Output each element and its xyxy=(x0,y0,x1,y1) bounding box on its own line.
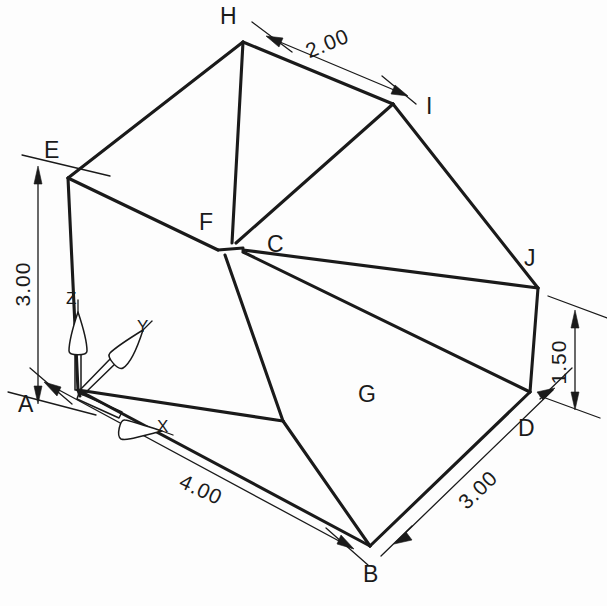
dim-text-depth-right: 3.00 xyxy=(454,466,502,514)
dimension-front-width: 4.00 xyxy=(30,368,368,565)
edge-F-G xyxy=(225,255,283,421)
vertex-label-J: J xyxy=(524,245,536,271)
vertex-label-G: G xyxy=(358,381,376,407)
edge-F-C xyxy=(218,248,243,250)
dim-text-front-width: 4.00 xyxy=(176,469,226,509)
vertex-label-I: I xyxy=(426,93,433,119)
edge-C-I xyxy=(236,104,393,243)
arrow-right-top-width xyxy=(391,85,408,96)
dimension-height-right: 1.50 xyxy=(540,296,607,418)
axis-z-label: Z xyxy=(66,289,76,308)
axis-x-label: X xyxy=(157,417,168,436)
arrow-up-left-height xyxy=(34,166,42,184)
dim-line-3-00-depth xyxy=(396,390,553,542)
object-edges xyxy=(68,42,538,546)
ext-line-E-left xyxy=(22,155,110,176)
dim-text-height-left: 3.00 xyxy=(11,262,34,307)
edge-E-F xyxy=(68,178,218,250)
axis-y-shaft xyxy=(79,357,117,395)
dimension-depth-right: 3.00 xyxy=(381,368,572,556)
edge-C-D xyxy=(243,252,530,392)
vertex-label-E: E xyxy=(44,137,60,163)
arrow-up-right-height xyxy=(571,310,579,328)
technical-drawing-svg: 3.00 2.00 1.50 3.00 xyxy=(0,0,607,606)
vertex-label-A: A xyxy=(18,391,34,417)
vertex-label-C: C xyxy=(267,231,284,257)
dim-text-top-width: 2.00 xyxy=(302,24,352,62)
vertex-label-H: H xyxy=(220,3,237,29)
edge-F-H xyxy=(232,42,243,243)
vertex-label-F: F xyxy=(199,209,214,235)
axis-z-arrowhead xyxy=(69,312,87,355)
dimension-height-left: 3.00 xyxy=(8,155,110,415)
dimension-top-width: 2.00 xyxy=(252,22,416,104)
edge-D-J xyxy=(530,288,538,392)
ext-line-D-right xyxy=(540,396,600,418)
edge-A-E xyxy=(68,178,78,390)
axis-y-label: Y xyxy=(137,317,148,336)
arrow-left-top-width xyxy=(266,36,283,47)
vertex-label-B: B xyxy=(363,561,379,587)
edge-B-D xyxy=(370,392,530,546)
edge-C-J xyxy=(243,250,538,288)
arrow-down-left-height xyxy=(34,386,42,404)
isometric-drawing-canvas: 3.00 2.00 1.50 3.00 xyxy=(0,0,607,606)
vertex-label-D: D xyxy=(518,415,535,441)
edge-E-H xyxy=(68,42,243,178)
arrow-down-depth xyxy=(394,532,412,544)
axis-indicator: Z Y X xyxy=(66,289,173,440)
ext-line-J-right xyxy=(548,296,607,318)
edge-I-J xyxy=(393,104,538,288)
dim-text-height-right: 1.50 xyxy=(547,340,570,385)
arrow-left-front-width xyxy=(44,382,61,396)
edge-G-B xyxy=(283,421,370,546)
